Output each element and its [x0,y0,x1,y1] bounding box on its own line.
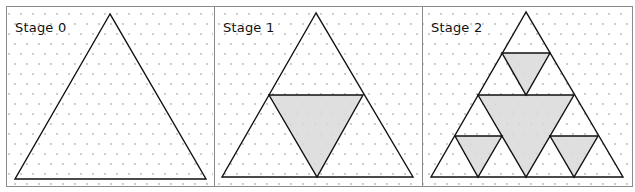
sierpinski-figure [0,0,635,192]
stage-label: Stage 0 [15,20,66,35]
stage-label: Stage 2 [431,20,482,35]
stage-label: Stage 1 [223,20,274,35]
